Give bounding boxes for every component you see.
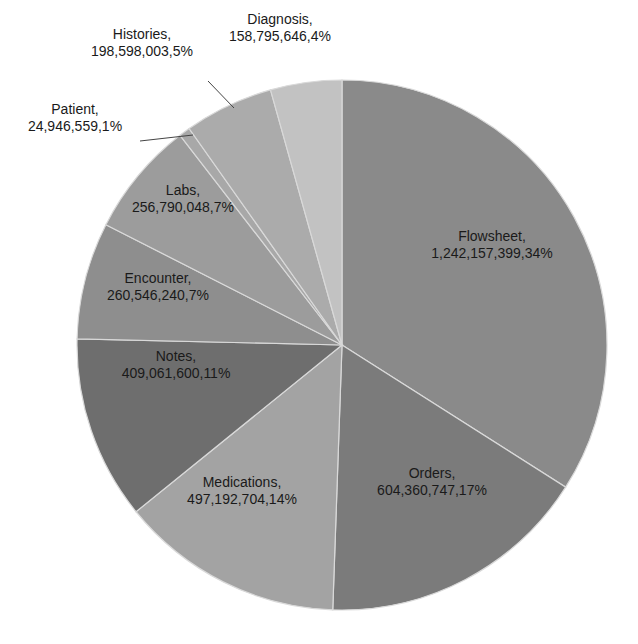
slice-value: 604,360,747,17% [377,482,487,499]
pie-chart: Flowsheet,1,242,157,399,34%Orders,604,36… [0,0,638,644]
slice-label-patient: Patient,24,946,559,1% [28,101,122,135]
slice-value: 1,242,157,399,34% [431,245,552,262]
slice-name: Orders, [377,465,487,482]
slice-label-diagnosis: Diagnosis,158,795,646,4% [229,11,331,45]
slice-label-labs: Labs,256,790,048,7% [132,182,234,216]
slice-value: 198,598,003,5% [91,43,193,60]
slice-value: 24,946,559,1% [28,118,122,135]
slice-name: Encounter, [107,270,209,287]
pie-chart-svg [0,0,638,644]
slice-name: Flowsheet, [431,228,552,245]
slice-name: Medications, [187,474,297,491]
slice-label-notes: Notes,409,061,600,11% [122,348,231,382]
slice-name: Patient, [28,101,122,118]
slice-label-flowsheet: Flowsheet,1,242,157,399,34% [431,228,552,262]
slice-label-orders: Orders,604,360,747,17% [377,465,487,499]
slice-name: Histories, [91,26,193,43]
slice-value: 497,192,704,14% [187,491,297,508]
slice-name: Notes, [122,348,231,365]
slice-value: 409,061,600,11% [122,365,231,382]
slice-name: Diagnosis, [229,11,331,28]
slice-label-encounter: Encounter,260,546,240,7% [107,270,209,304]
slice-value: 260,546,240,7% [107,287,209,304]
slice-label-medications: Medications,497,192,704,14% [187,474,297,508]
leader-line-histories [208,81,234,108]
slice-name: Labs, [132,182,234,199]
slice-value: 256,790,048,7% [132,199,234,216]
slice-value: 158,795,646,4% [229,28,331,45]
slice-label-histories: Histories,198,598,003,5% [91,26,193,60]
